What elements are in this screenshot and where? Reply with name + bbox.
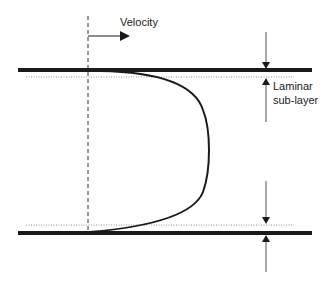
- laminar-label-line1: Laminar: [273, 80, 313, 93]
- laminar-label-line2: sub-layer: [273, 94, 318, 107]
- velocity-profile-curve: [90, 71, 209, 232]
- down-arrow-icon: [262, 62, 270, 69]
- velocity-profile-diagram: [0, 0, 330, 283]
- down-arrow-icon: [262, 217, 270, 224]
- up-arrow-icon: [262, 235, 270, 242]
- up-arrow-icon: [262, 78, 270, 85]
- velocity-arrow-head-icon: [120, 31, 130, 41]
- velocity-label: Velocity: [120, 16, 158, 29]
